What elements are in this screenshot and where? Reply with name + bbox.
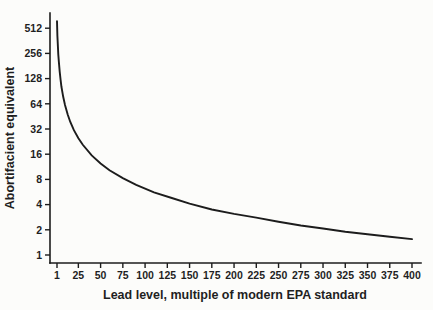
x-tick-label: 100	[136, 269, 154, 281]
line-chart: 1248163264128256512125507510012515017520…	[0, 0, 433, 310]
y-axis-title: Abortifacient equivalent	[3, 66, 17, 209]
data-curve	[57, 21, 412, 239]
chart-figure: 1248163264128256512125507510012515017520…	[0, 0, 433, 310]
x-tick-label: 225	[248, 269, 266, 281]
x-axis-title: Lead level, multiple of modern EPA stand…	[103, 288, 367, 302]
x-tick-label: 175	[203, 269, 221, 281]
y-tick-label: 1	[36, 249, 42, 261]
x-tick-label: 300	[314, 269, 332, 281]
y-tick-label: 32	[30, 123, 42, 135]
x-tick-label: 25	[73, 269, 85, 281]
x-tick-label: 400	[403, 269, 421, 281]
x-tick-label: 350	[359, 269, 377, 281]
x-tick-label: 75	[117, 269, 129, 281]
plot-area: 1248163264128256512125507510012515017520…	[24, 13, 421, 281]
y-tick-label: 2	[36, 224, 42, 236]
y-tick-label: 8	[36, 173, 42, 185]
x-tick-label: 325	[337, 269, 355, 281]
y-tick-label: 512	[24, 22, 42, 34]
y-tick-label: 256	[24, 47, 42, 59]
x-tick-label: 200	[225, 269, 243, 281]
x-tick-label: 275	[292, 269, 310, 281]
y-tick-label: 128	[24, 72, 42, 84]
x-tick-label: 125	[159, 269, 177, 281]
y-tick-label: 64	[30, 98, 42, 110]
x-tick-label: 375	[381, 269, 399, 281]
y-tick-label: 4	[36, 198, 42, 210]
x-tick-label: 150	[181, 269, 199, 281]
x-tick-label: 250	[270, 269, 288, 281]
x-tick-label: 1	[54, 269, 60, 281]
y-tick-label: 16	[30, 148, 42, 160]
x-tick-label: 50	[95, 269, 107, 281]
